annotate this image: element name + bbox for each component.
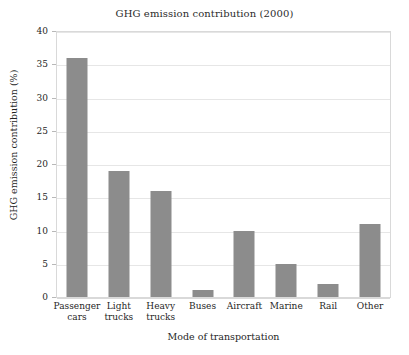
bar-passenger-cars[interactable] xyxy=(66,58,87,297)
y-tick-mark-20 xyxy=(52,164,56,165)
x-tick-label-line1: Light xyxy=(107,301,131,311)
y-tick-mark-0 xyxy=(52,297,56,298)
y-tick-mark-40 xyxy=(52,31,56,32)
y-tick-label-15: 15 xyxy=(8,192,48,202)
y-tick-label-35: 35 xyxy=(8,59,48,69)
x-tick-label-line1: Heavy xyxy=(146,301,175,311)
y-tick-mark-5 xyxy=(52,264,56,265)
x-axis-tick-labels: PassengercarsLighttrucksHeavytrucksBuses… xyxy=(56,301,391,335)
bar-slot xyxy=(265,31,307,297)
x-tick-label-line1: Aircraft xyxy=(227,301,262,311)
bar-series xyxy=(56,31,391,297)
bar-slot xyxy=(349,31,391,297)
y-tick-mark-10 xyxy=(52,231,56,232)
x-tick-label-line1: Marine xyxy=(270,301,303,311)
x-axis-label: Mode of transportation xyxy=(56,331,391,342)
x-tick-label-other: Other xyxy=(344,301,396,312)
chart-page: GHG emission contribution (2000) GHG emi… xyxy=(0,0,409,355)
y-tick-label-5: 5 xyxy=(8,259,48,269)
y-tick-mark-30 xyxy=(52,98,56,99)
bar-rail[interactable] xyxy=(318,284,339,297)
bar-slot xyxy=(182,31,224,297)
x-tick-label-line1: Rail xyxy=(319,301,337,311)
y-tick-label-20: 20 xyxy=(8,159,48,169)
bar-aircraft[interactable] xyxy=(234,231,255,298)
x-tick-label-line1: Buses xyxy=(189,301,216,311)
y-tick-label-40: 40 xyxy=(8,26,48,36)
y-tick-label-10: 10 xyxy=(8,226,48,236)
y-tick-label-30: 30 xyxy=(8,93,48,103)
bar-slot xyxy=(98,31,140,297)
bar-slot xyxy=(56,31,98,297)
y-tick-label-0: 0 xyxy=(8,292,48,302)
bar-light-trucks[interactable] xyxy=(108,171,129,297)
chart-title: GHG emission contribution (2000) xyxy=(0,8,409,19)
y-tick-mark-15 xyxy=(52,197,56,198)
bar-other[interactable] xyxy=(360,224,381,297)
gridline-0 xyxy=(57,298,390,299)
x-tick-label-line1: Other xyxy=(357,301,383,311)
y-tick-mark-25 xyxy=(52,131,56,132)
bar-heavy-trucks[interactable] xyxy=(150,191,171,297)
x-tick-label-line2: trucks xyxy=(135,312,187,323)
y-tick-label-25: 25 xyxy=(8,126,48,136)
bar-slot xyxy=(307,31,349,297)
bar-buses[interactable] xyxy=(192,290,213,297)
bar-slot xyxy=(224,31,266,297)
bar-slot xyxy=(140,31,182,297)
y-tick-mark-35 xyxy=(52,64,56,65)
bar-marine[interactable] xyxy=(276,264,297,297)
